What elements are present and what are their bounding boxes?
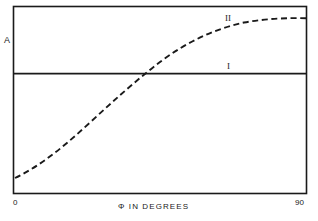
plot-border — [14, 7, 307, 194]
curve-label-ii: II — [225, 14, 231, 23]
x-axis-tick-max: 90 — [295, 199, 304, 207]
x-axis-label: Φ IN DEGREES — [118, 203, 189, 211]
curve-label-i: I — [227, 62, 230, 71]
y-axis-label: A — [4, 36, 10, 45]
curve-ii-dashed — [15, 18, 306, 178]
x-axis-tick-min: 0 — [13, 199, 17, 207]
figure-container: A 0 90 Φ IN DEGREES I II — [0, 0, 318, 221]
chart-plot-area — [0, 0, 318, 221]
